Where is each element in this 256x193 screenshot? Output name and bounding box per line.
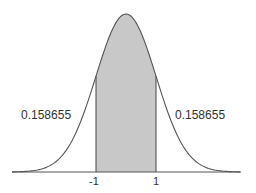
tick-label-neg1: -1 <box>89 175 99 187</box>
left-tail-probability: 0.158655 <box>21 108 71 122</box>
normal-curve-chart <box>0 0 256 193</box>
tick-label-pos1: 1 <box>153 175 159 187</box>
right-tail-probability: 0.158655 <box>175 108 225 122</box>
shaded-area <box>96 14 156 172</box>
